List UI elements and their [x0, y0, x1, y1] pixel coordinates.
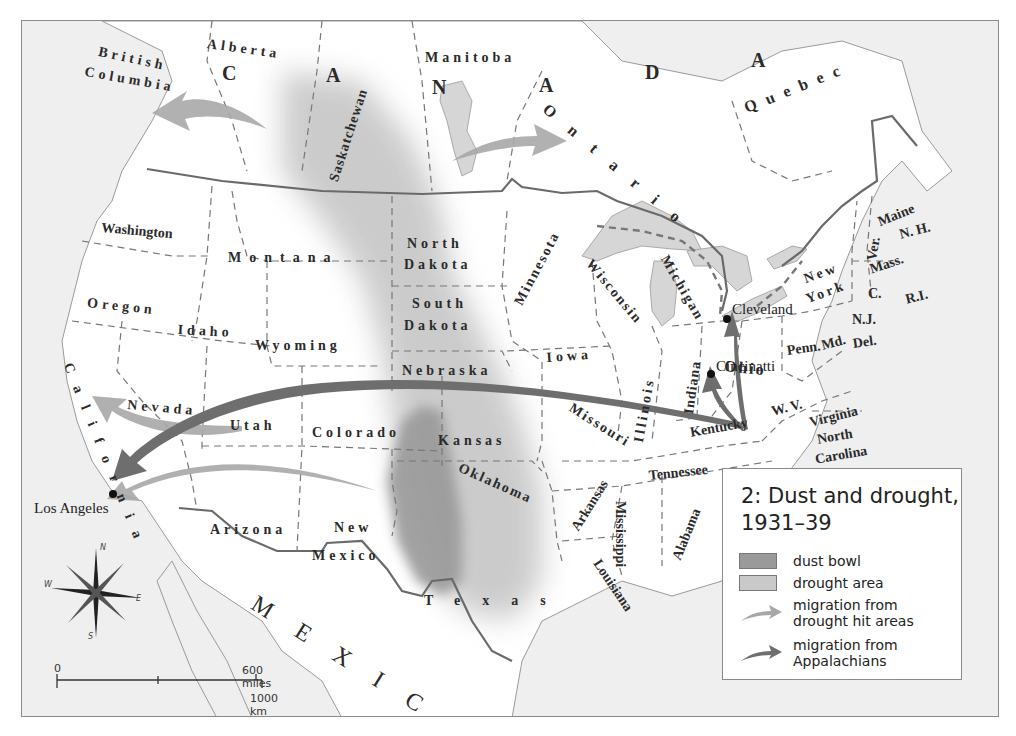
- scale-bar: 0 600 miles 1000 km: [32, 644, 272, 704]
- legend-item-drought-area: drought area: [739, 575, 884, 591]
- scale-miles: 600 miles: [242, 664, 272, 690]
- canada-letter-a1: A: [326, 65, 340, 85]
- state-north-dakota-2: Dakota: [404, 258, 472, 272]
- canada-letter-c: C: [222, 63, 236, 83]
- city-los-angeles: Los Angeles: [34, 501, 109, 516]
- canada-letter-a2: A: [539, 75, 553, 95]
- legend-title-line1: 2: Dust and drought,: [741, 483, 961, 510]
- state-colorado: Colorado: [312, 426, 400, 440]
- cincinatti-dot: [707, 370, 715, 378]
- city-cincinatti: Cincinatti: [716, 359, 775, 374]
- legend-label: migration from drought hit areas: [793, 597, 914, 629]
- state-new-mexico-1: New: [334, 521, 372, 535]
- city-cleveland: Cleveland: [732, 302, 793, 317]
- state-nebraska: Nebraska: [402, 364, 492, 378]
- state-arizona: Arizona: [210, 523, 286, 537]
- state-north-dakota-1: North: [407, 237, 463, 251]
- state-connecticut: C.: [868, 287, 882, 301]
- legend-label: drought area: [793, 575, 884, 591]
- state-utah: Utah: [230, 419, 276, 433]
- legend-label: dust bowl: [793, 553, 861, 569]
- canada-letter-n: N: [432, 77, 446, 97]
- compass-n: N: [100, 543, 106, 552]
- scale-km: 1000 km: [250, 692, 278, 718]
- compass: N W E S: [40, 540, 140, 640]
- state-new-jersey: N.J.: [852, 313, 876, 327]
- legend-label-line1: migration from: [793, 597, 898, 613]
- legend-label-line2: drought hit areas: [793, 613, 914, 629]
- dust-bowl-swatch: [739, 553, 777, 569]
- dark-arrow-icon: [739, 641, 783, 665]
- legend-item-migration-drought: migration from drought hit areas: [739, 597, 914, 629]
- canada-letter-d: D: [645, 62, 659, 82]
- legend-label: migration from Appalachians: [793, 637, 898, 669]
- compass-e: E: [136, 594, 141, 603]
- state-new-mexico-2: Mexico: [312, 549, 380, 563]
- legend-title-line2: 1931–39: [741, 510, 961, 537]
- compass-s: S: [88, 632, 93, 641]
- legend: 2: Dust and drought, 1931–39 dust bowl d…: [722, 468, 962, 680]
- state-south-dakota-2: Dakota: [404, 319, 472, 333]
- canada-letter-a3: A: [751, 50, 765, 70]
- state-mississippi: Mississippi: [613, 501, 627, 567]
- state-montana: Montana: [228, 251, 338, 265]
- cleveland-dot: [723, 315, 731, 323]
- legend-title: 2: Dust and drought, 1931–39: [741, 483, 961, 537]
- state-south-dakota-1: South: [412, 297, 467, 311]
- state-kansas: Kansas: [438, 434, 506, 448]
- state-wyoming: Wyoming: [255, 339, 341, 353]
- legend-label-line1: migration from: [793, 637, 898, 653]
- scale-line: [32, 674, 272, 698]
- legend-label-line2: Appalachians: [793, 653, 887, 669]
- compass-w: W: [44, 580, 52, 589]
- light-arrow-icon: [739, 601, 783, 625]
- legend-item-dust-bowl: dust bowl: [739, 553, 861, 569]
- state-texas: Texas: [424, 594, 568, 608]
- province-manitoba: Manitoba: [425, 51, 515, 65]
- drought-area-swatch: [739, 575, 777, 591]
- legend-item-migration-appalachians: migration from Appalachians: [739, 637, 898, 669]
- state-idaho: Idaho: [177, 323, 233, 340]
